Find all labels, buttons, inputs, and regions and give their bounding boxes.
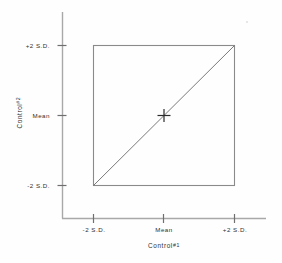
x-tick-label-plus2sd: +2 S.D. <box>213 226 257 233</box>
x-tick-label-minus2sd: -2 S.D. <box>72 226 116 233</box>
x-axis-title: Control#1 <box>119 242 209 249</box>
scan-artifact-speck <box>246 21 248 23</box>
y-tick-label-plus2sd: +2 S.D. <box>6 42 50 49</box>
plot-canvas <box>0 0 282 263</box>
y-axis-title-text: Control <box>16 104 23 129</box>
x-axis-title-index: #1 <box>173 242 180 248</box>
x-axis-title-text: Control <box>148 242 173 249</box>
y-tick-label-minus2sd: -2 S.D. <box>6 182 50 189</box>
x-tick-label-mean: Mean <box>142 226 186 233</box>
y-tick-label-mean: Mean <box>6 112 50 119</box>
y-axis-title-index: #2 <box>15 97 21 104</box>
youden-plot-figure: +2 S.D. Mean -2 S.D. -2 S.D. Mean +2 S.D… <box>0 0 282 263</box>
y-axis-title: Control#2 <box>15 78 22 148</box>
